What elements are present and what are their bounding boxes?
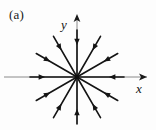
vector-arrowhead-icon [39, 74, 45, 79]
x-axis-label: x [136, 81, 142, 97]
vector-arrowhead-icon [74, 39, 79, 45]
phase-portrait-figure: (a) y x [0, 0, 156, 130]
panel-label: (a) [9, 7, 24, 23]
vector-arrowhead-icon [109, 74, 115, 79]
axis-lines [4, 14, 147, 124]
equilibrium-point [75, 75, 79, 79]
vector-arrowhead-icon [74, 109, 79, 115]
y-axis-label: y [61, 17, 67, 33]
